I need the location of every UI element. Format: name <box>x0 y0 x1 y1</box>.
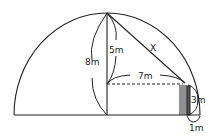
pole-object <box>180 85 190 115</box>
dome-diagram: 8m 5m 7m X 3m 1m <box>0 0 218 140</box>
label-8m: 8m <box>85 57 100 67</box>
label-x: X <box>150 43 156 53</box>
label-7m: 7m <box>138 71 153 81</box>
label-5m: 5m <box>109 45 124 55</box>
label-1m: 1m <box>189 123 204 133</box>
label-3m: 3m <box>191 95 206 105</box>
brace-1m <box>187 116 200 122</box>
